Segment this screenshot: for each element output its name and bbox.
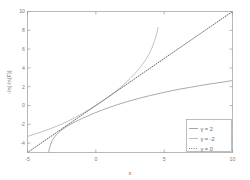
- y-axis-title: -ln(-ln(F)): [6, 70, 12, 93]
- y-tick-label: 6: [22, 46, 25, 52]
- y-tick-label: -2: [20, 121, 25, 127]
- legend-label: γ = 0: [201, 146, 213, 152]
- legend-label: γ = 2: [201, 126, 213, 132]
- y-tick-label: 0: [22, 102, 25, 108]
- x-tick-label: 5: [163, 156, 166, 162]
- curve-gamma-minus-2: [28, 27, 159, 136]
- legend-label: γ = -2: [201, 136, 215, 142]
- chart-legend[interactable]: γ = 2γ = -2γ = 0: [187, 120, 232, 152]
- x-tick-label: 10: [230, 156, 236, 162]
- y-tick-label: 10: [19, 8, 25, 14]
- y-tick-label: 4: [22, 65, 25, 71]
- y-tick-label: 8: [22, 27, 25, 33]
- y-tick-label: 2: [22, 84, 25, 90]
- y-tick-label: -4: [20, 140, 25, 146]
- x-tick-label: 0: [94, 156, 97, 162]
- x-axis-title: x: [129, 170, 132, 176]
- gev-probability-plot: -50510 -4-20246810 x -ln(-ln(F)) γ = 2γ …: [0, 0, 250, 180]
- x-tick-label: -5: [25, 156, 30, 162]
- chart-figure: -50510 -4-20246810 x -ln(-ln(F)) γ = 2γ …: [0, 0, 250, 180]
